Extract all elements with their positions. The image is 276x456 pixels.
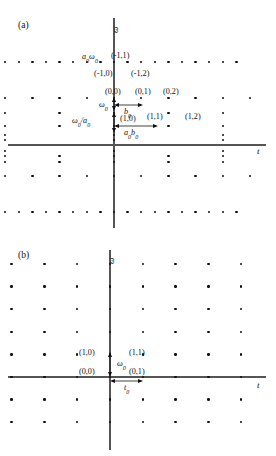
panel-b: (b) t ω (1,0)(1,1)(0,0)(0,1)ω0t0 bbox=[0, 228, 276, 456]
panel-a-label-9: (1,0) bbox=[120, 115, 136, 123]
panel-a-label-4: (0,0) bbox=[105, 88, 121, 96]
panel-a-arrows bbox=[0, 0, 276, 228]
panel-a-label-11: (1,2) bbox=[185, 113, 201, 121]
figure-root: (a) t ω a0ω0(-1,1)(-1,0)(-1,2)(0,0)(0 bbox=[0, 0, 276, 456]
panel-b-label-0: (1,0) bbox=[79, 349, 95, 357]
panel-a-label-7: ω0 bbox=[99, 101, 108, 109]
panel-a-label-0: a0ω0 bbox=[82, 53, 98, 61]
panel-b-label-2: (0,0) bbox=[79, 368, 95, 376]
panel-b-label-5: t0 bbox=[124, 384, 129, 392]
panel-a-label-10: (1,1) bbox=[147, 113, 163, 121]
panel-b-label-4: ω0 bbox=[117, 360, 126, 368]
panel-b-arrows bbox=[0, 228, 276, 456]
panel-a-label-2: (-1,0) bbox=[94, 70, 112, 78]
panel-b-label-1: (1,1) bbox=[129, 349, 145, 357]
panel-a-label-6: (0,2) bbox=[163, 88, 179, 96]
panel-a-label-5: (0,1) bbox=[135, 88, 151, 96]
panel-b-label-3: (0,1) bbox=[129, 368, 145, 376]
panel-a-label-13: a0b0 bbox=[124, 129, 138, 137]
panel-a-label-1: (-1,1) bbox=[111, 52, 129, 60]
panel-a-label-3: (-1,2) bbox=[131, 70, 149, 78]
panel-a-label-12: ω0/a0 bbox=[72, 117, 90, 125]
panel-a: (a) t ω a0ω0(-1,1)(-1,0)(-1,2)(0,0)(0 bbox=[0, 0, 276, 228]
